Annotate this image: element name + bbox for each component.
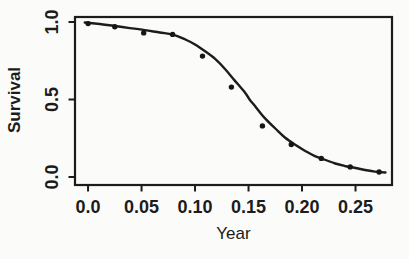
y-tick-label: 0.0 [42,164,62,189]
x-tick-label: 0.05 [124,197,159,217]
y-axis-label: Survival [5,67,24,133]
x-tick-label: 0.20 [285,197,320,217]
data-point [112,24,117,29]
x-tick-label: 0.15 [231,197,266,217]
y-tick-label: 0.5 [42,87,62,112]
fitted-curve [85,23,386,173]
data-point [200,53,205,58]
data-point [229,84,234,89]
plot-frame [75,17,392,185]
data-point [141,30,146,35]
x-tick-label: 0.10 [178,197,213,217]
fitted-curve-path [85,23,386,173]
data-point [348,164,353,169]
data-point [319,156,324,161]
data-point [85,21,90,26]
y-axis-ticks: 0.00.51.0 [42,9,75,189]
x-axis-label: Year [216,224,251,243]
survival-plot-figure: 0.00.050.100.150.200.25 0.00.51.0 Year S… [0,0,409,259]
plot-border [75,17,392,185]
data-point [376,169,381,174]
data-point [170,32,175,37]
x-axis-ticks: 0.00.050.100.150.200.25 [76,185,374,217]
data-points [85,21,381,175]
data-point [289,142,294,147]
y-tick-label: 1.0 [42,9,62,34]
survival-chart: 0.00.050.100.150.200.25 0.00.51.0 Year S… [0,0,409,259]
data-point [260,123,265,128]
x-tick-label: 0.25 [338,197,373,217]
x-tick-label: 0.0 [76,197,101,217]
